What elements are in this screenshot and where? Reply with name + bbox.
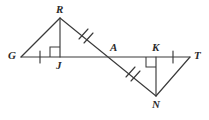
vertex-label-K: K — [152, 42, 159, 53]
right-angle-J-icon — [50, 47, 60, 57]
tick-RA-marks — [79, 29, 93, 43]
vertex-label-A: A — [110, 42, 117, 53]
geometry-figure: G J R A K T N — [0, 0, 209, 120]
vertex-label-G: G — [8, 50, 16, 61]
vertex-label-J: J — [56, 60, 62, 71]
right-angle-K-icon — [146, 57, 156, 67]
vertex-label-T: T — [194, 50, 201, 61]
figure-canvas — [0, 0, 209, 120]
vertex-label-R: R — [56, 4, 63, 15]
tick-AN-marks — [126, 67, 140, 81]
vertex-label-N: N — [152, 99, 160, 110]
